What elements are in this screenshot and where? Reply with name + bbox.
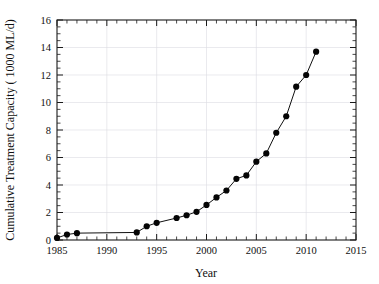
chart-figure: 1985199019952000200520102015 02468101214… [0,0,379,284]
y-tick-label: 10 [41,97,52,108]
data-point-marker [174,215,180,221]
data-point-marker [74,230,80,236]
data-point-marker [223,187,229,193]
x-tick-label: 2010 [296,245,317,256]
y-tick-label: 14 [41,42,52,53]
data-point-marker [154,220,160,226]
line-chart-svg: 1985199019952000200520102015 02468101214… [0,0,379,284]
data-point-marker [193,209,199,215]
data-point-marker [263,150,269,156]
x-tick-label: 1985 [47,245,68,256]
y-tick-label: 16 [41,15,52,26]
y-tick-label: 2 [46,207,51,218]
data-point-marker [313,49,319,55]
y-tick-label: 12 [41,70,52,81]
data-point-marker [213,194,219,200]
data-point-marker [303,72,309,78]
x-tick-label: 1995 [146,245,167,256]
data-point-marker [253,159,259,165]
x-tick-label: 2005 [246,245,267,256]
y-tick-label: 8 [46,125,51,136]
x-tick-label: 2015 [346,245,367,256]
y-tick-label: 6 [46,152,51,163]
x-tick-label: 1990 [96,245,117,256]
data-point-marker [233,176,239,182]
data-point-marker [64,231,70,237]
data-point-marker [283,113,289,119]
y-tick-label: 4 [46,180,52,191]
data-point-marker [144,223,150,229]
data-point-marker [243,172,249,178]
x-tick-label: 2000 [196,245,217,256]
y-tick-label: 0 [46,235,51,246]
data-point-marker [203,202,209,208]
data-point-marker [134,229,140,235]
data-point-marker [293,84,299,90]
data-point-marker [273,130,279,136]
data-point-marker [54,235,60,241]
y-axis-title: Cumulative Treatment Capacity ( 1000 ML/… [3,19,17,241]
x-axis-title: Year [195,266,217,280]
data-point-marker [183,212,189,218]
